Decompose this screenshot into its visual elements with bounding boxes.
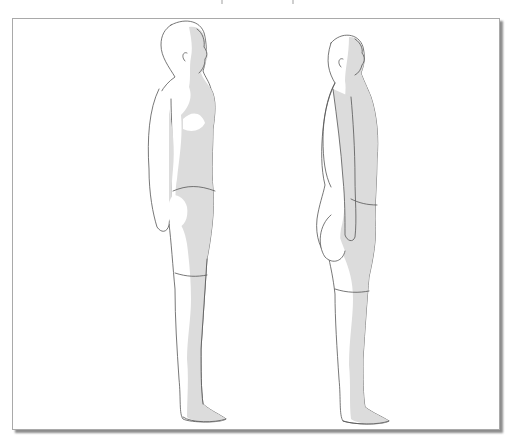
illustration-frame: [12, 18, 500, 430]
figure-swayback-posture: [295, 19, 405, 429]
cropped-caption-artifacts: [0, 0, 518, 8]
swayback-figure-drawing: [295, 19, 405, 429]
upright-figure-drawing: [131, 19, 241, 429]
artifact-mark: [292, 0, 294, 4]
figure-upright-posture: [131, 19, 241, 429]
artifact-mark: [221, 0, 223, 4]
